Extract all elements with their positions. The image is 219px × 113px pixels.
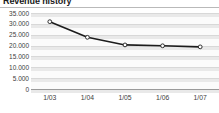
y-axis-tick-label: 30.000 (0, 20, 29, 27)
x-axis-tick-label: 1/04 (72, 93, 102, 102)
data-point-marker (48, 20, 52, 24)
y-axis-tick-label: 10.000 (0, 64, 29, 71)
y-axis: 35.00030.00025.00020.00015.00010.0005.00… (0, 0, 29, 113)
x-axis-line (31, 89, 219, 90)
title-divider (0, 7, 219, 8)
y-axis-tick-label: 35.000 (0, 10, 29, 17)
y-axis-tick-label: 20.000 (0, 42, 29, 49)
data-point-marker (86, 35, 90, 39)
revenue-history-chart-widget: Revenue history 35.00030.00025.00020.000… (0, 0, 219, 113)
y-axis-tick-label: 0 (0, 86, 29, 93)
revenue-line-series (31, 13, 219, 89)
y-axis-tick-label: 5.000 (0, 75, 29, 82)
data-point-marker (123, 43, 127, 47)
y-axis-tick-label: 25.000 (0, 31, 29, 38)
y-axis-tick-label: 15.000 (0, 53, 29, 60)
data-point-marker (161, 44, 165, 48)
x-axis-tick-label: 1/05 (110, 93, 140, 102)
x-axis-tick-label: 1/07 (185, 93, 215, 102)
x-axis-tick-label: 1/03 (35, 93, 65, 102)
x-axis-tick-label: 1/06 (148, 93, 178, 102)
data-point-marker (198, 45, 202, 49)
x-axis: 1/031/041/051/061/07 (31, 93, 219, 107)
